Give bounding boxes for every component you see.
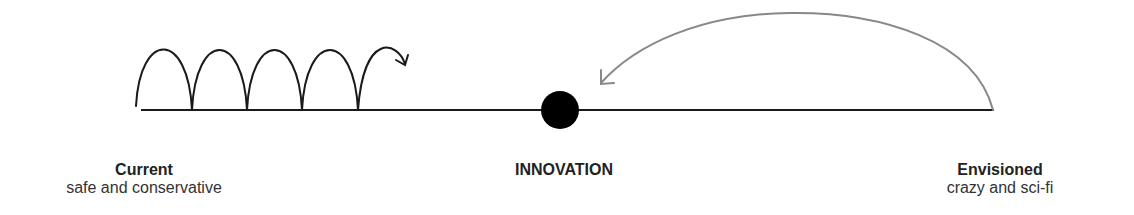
envisioned-title: Envisioned xyxy=(900,161,1100,179)
current-title: Current xyxy=(44,161,244,179)
current-subtitle: safe and conservative xyxy=(44,179,244,197)
envisioned-subtitle: crazy and sci-fi xyxy=(900,179,1100,197)
innovation-label: INNOVATION xyxy=(464,161,664,179)
current-label: Current safe and conservative xyxy=(44,161,244,197)
innovation-dot xyxy=(541,91,579,129)
incremental-hops xyxy=(136,48,408,110)
leap-arrow xyxy=(601,13,993,110)
envisioned-label: Envisioned crazy and sci-fi xyxy=(900,161,1100,197)
innovation-title: INNOVATION xyxy=(464,161,664,179)
